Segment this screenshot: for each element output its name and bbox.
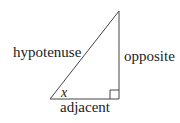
adjacent-label: adjacent [60, 100, 110, 115]
right-triangle-diagram: hypotenuse opposite adjacent x [0, 0, 180, 123]
angle-x-label: x [61, 86, 67, 100]
hypotenuse-label: hypotenuse [13, 45, 81, 60]
opposite-label: opposite [124, 49, 175, 64]
right-angle-marker [110, 90, 119, 99]
